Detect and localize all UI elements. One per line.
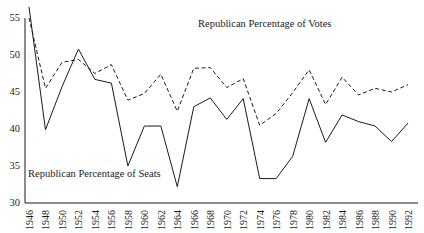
- y-tick-50: 50: [2, 50, 20, 61]
- series-annotation-votes: Republican Percentage of Votes: [198, 18, 331, 29]
- chart-figure: 303540455055 194619481950195219541956195…: [0, 0, 424, 233]
- x-tick-1984: 1984: [338, 210, 348, 230]
- x-tick-1966: 1966: [190, 210, 200, 230]
- x-tick-1960: 1960: [140, 210, 150, 230]
- x-tick-1970: 1970: [223, 210, 233, 230]
- x-tick-1992: 1992: [404, 210, 414, 230]
- series-line-seats: [29, 7, 408, 187]
- x-tick-1962: 1962: [157, 210, 167, 230]
- x-tick-1982: 1982: [322, 210, 332, 230]
- x-tick-1946: 1946: [25, 210, 35, 230]
- x-tick-1964: 1964: [173, 210, 183, 230]
- x-tick-1988: 1988: [371, 210, 381, 230]
- x-tick-1958: 1958: [124, 210, 134, 230]
- series-group: [29, 7, 408, 187]
- series-annotation-seats: Republican Percentage of Seats: [28, 168, 161, 179]
- y-tick-45: 45: [2, 87, 20, 98]
- x-tick-1980: 1980: [305, 210, 315, 230]
- x-tick-1974: 1974: [256, 210, 266, 230]
- x-tick-1954: 1954: [91, 210, 101, 230]
- x-tick-1968: 1968: [206, 210, 216, 230]
- x-tick-1952: 1952: [74, 210, 84, 230]
- y-tick-40: 40: [2, 124, 20, 135]
- x-tick-1986: 1986: [355, 210, 365, 230]
- x-tick-1990: 1990: [388, 210, 398, 230]
- x-tick-1948: 1948: [41, 210, 51, 230]
- chart-canvas: [0, 0, 424, 233]
- y-tick-55: 55: [2, 13, 20, 24]
- x-tick-1978: 1978: [289, 210, 299, 230]
- y-tick-30: 30: [2, 198, 20, 209]
- x-tick-1976: 1976: [272, 210, 282, 230]
- x-tick-1972: 1972: [239, 210, 249, 230]
- x-tick-1956: 1956: [107, 210, 117, 230]
- x-tick-1950: 1950: [58, 210, 68, 230]
- y-tick-35: 35: [2, 161, 20, 172]
